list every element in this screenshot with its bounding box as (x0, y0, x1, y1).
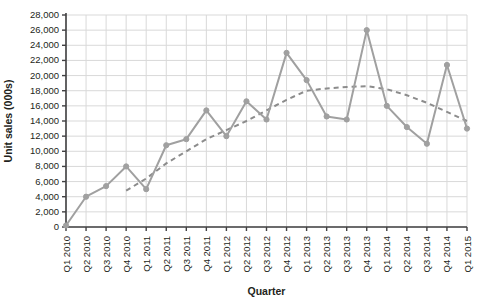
y-axis-tick-label: 22,000 (30, 54, 59, 65)
x-axis-tick-label: Q1 2010 (61, 236, 72, 272)
data-point-marker (324, 114, 329, 119)
data-point-marker (364, 28, 369, 33)
x-axis-tick-label: Q2 2010 (81, 236, 92, 272)
data-point-marker (264, 117, 269, 122)
y-axis-tick-label: 28,000 (30, 9, 59, 20)
y-axis-labels: 02,0004,0006,0008,00010,00012,00014,0001… (30, 9, 59, 232)
data-point-marker (344, 117, 349, 122)
x-axis-tick-label: Q1 2011 (141, 236, 152, 272)
y-axis-title: Unit sales (000s) (2, 80, 14, 163)
data-point-marker (164, 143, 169, 148)
y-axis-tick-label: 16,000 (30, 100, 59, 111)
x-axis-tick-label: Q4 2013 (361, 236, 372, 272)
y-axis-tick-label: 8,000 (35, 160, 59, 171)
x-axis-tick-label: Q2 2014 (401, 236, 412, 272)
data-point-marker (464, 126, 469, 131)
x-axis-tick-label: Q3 2012 (261, 236, 272, 272)
y-axis-tick-label: 10,000 (30, 145, 59, 156)
data-point-marker (244, 99, 249, 104)
x-axis-labels: Q1 2010Q2 2010Q3 2010Q4 2010Q1 2011Q2 20… (61, 236, 473, 272)
chart-container: 02,0004,0006,0008,00010,00012,00014,0001… (0, 0, 477, 302)
data-point-marker (384, 103, 389, 108)
y-axis-tick-label: 0 (54, 221, 59, 232)
data-point-marker (104, 184, 109, 189)
x-axis-tick-label: Q1 2013 (301, 236, 312, 272)
x-axis-tick-label: Q4 2011 (201, 236, 212, 272)
y-axis-tick-label: 2,000 (35, 206, 59, 217)
x-axis-tick-label: Q3 2010 (101, 236, 112, 272)
x-axis-tick-label: Q1 2014 (381, 236, 392, 272)
x-axis-title: Quarter (248, 285, 286, 297)
y-axis-tick-label: 18,000 (30, 85, 59, 96)
x-axis-tick-label: Q3 2013 (341, 236, 352, 272)
data-point-marker (184, 137, 189, 142)
data-point-marker (424, 141, 429, 146)
data-point-marker (224, 134, 229, 139)
data-point-marker (124, 164, 129, 169)
y-axis-tick-label: 20,000 (30, 70, 59, 81)
data-point-marker (304, 78, 309, 83)
y-axis-tick-label: 14,000 (30, 115, 59, 126)
x-axis-tick-label: Q4 2012 (281, 236, 292, 272)
line-chart: 02,0004,0006,0008,00010,00012,00014,0001… (0, 0, 477, 302)
x-axis-tick-label: Q2 2011 (161, 236, 172, 272)
trend-series-path (126, 86, 467, 190)
x-axis-tick-label: Q3 2014 (421, 236, 432, 272)
data-point-marker (284, 50, 289, 55)
x-axis-tick-label: Q4 2014 (441, 236, 452, 272)
y-axis-tick-label: 24,000 (30, 39, 59, 50)
data-point-marker (444, 62, 449, 67)
x-axis-tick-label: Q3 2011 (181, 236, 192, 272)
x-axis-tick-label: Q1 2012 (221, 236, 232, 272)
y-axis-tick-label: 6,000 (35, 176, 59, 187)
data-point-marker (144, 187, 149, 192)
x-axis-tick-label: Q2 2012 (241, 236, 252, 272)
data-point-marker (83, 194, 88, 199)
data-point-marker (204, 108, 209, 113)
x-axis-tick-label: Q4 2010 (121, 236, 132, 272)
y-axis-tick-label: 26,000 (30, 24, 59, 35)
x-axis-tick-label: Q1 2015 (462, 236, 473, 272)
data-point-marker (63, 223, 68, 228)
y-axis-tick-label: 12,000 (30, 130, 59, 141)
x-axis-tick-label: Q2 2013 (321, 236, 332, 272)
y-axis-tick-label: 4,000 (35, 191, 59, 202)
data-point-marker (404, 124, 409, 129)
